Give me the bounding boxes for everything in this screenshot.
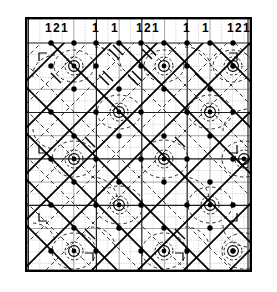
diagram-svg [25, 17, 252, 272]
top-label-4: 1 [92, 22, 99, 34]
top-label-13: 1 [243, 22, 250, 34]
top-label-12: 2 [235, 22, 242, 34]
top-label-10: 1 [202, 22, 209, 34]
top-label-5: 1 [111, 22, 118, 34]
top-label-7: 2 [144, 22, 151, 34]
top-label-1: 1 [45, 22, 52, 34]
top-label-3: 1 [61, 22, 68, 34]
top-label-6: 1 [136, 22, 143, 34]
space-group-diagram [25, 17, 252, 272]
top-label-2: 2 [53, 22, 60, 34]
top-label-8: 1 [152, 22, 159, 34]
figure-canvas: 1 2 1 1 1 1 2 1 1 1 1 2 1 [0, 0, 277, 292]
top-label-11: 1 [227, 22, 234, 34]
top-label-9: 1 [183, 22, 190, 34]
